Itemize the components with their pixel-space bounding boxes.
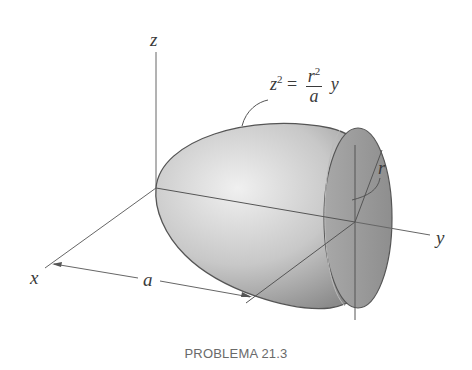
- x-axis-label: x: [30, 268, 38, 287]
- equation-leader: [242, 100, 268, 126]
- length-label: a: [143, 270, 153, 289]
- surface-equation: z2 = r2 a y: [270, 66, 339, 106]
- arrow-left: [52, 262, 62, 267]
- x-axis: [45, 188, 156, 268]
- y-axis-label: y: [436, 228, 444, 247]
- z-axis-label: z: [150, 30, 157, 49]
- dimension-a-left: [54, 264, 138, 278]
- paraboloid-diagram: [0, 0, 472, 370]
- figure-caption: PROBLEMA 21.3: [0, 346, 472, 361]
- radius-label: r: [378, 158, 385, 177]
- fraction: r2 a: [306, 66, 323, 106]
